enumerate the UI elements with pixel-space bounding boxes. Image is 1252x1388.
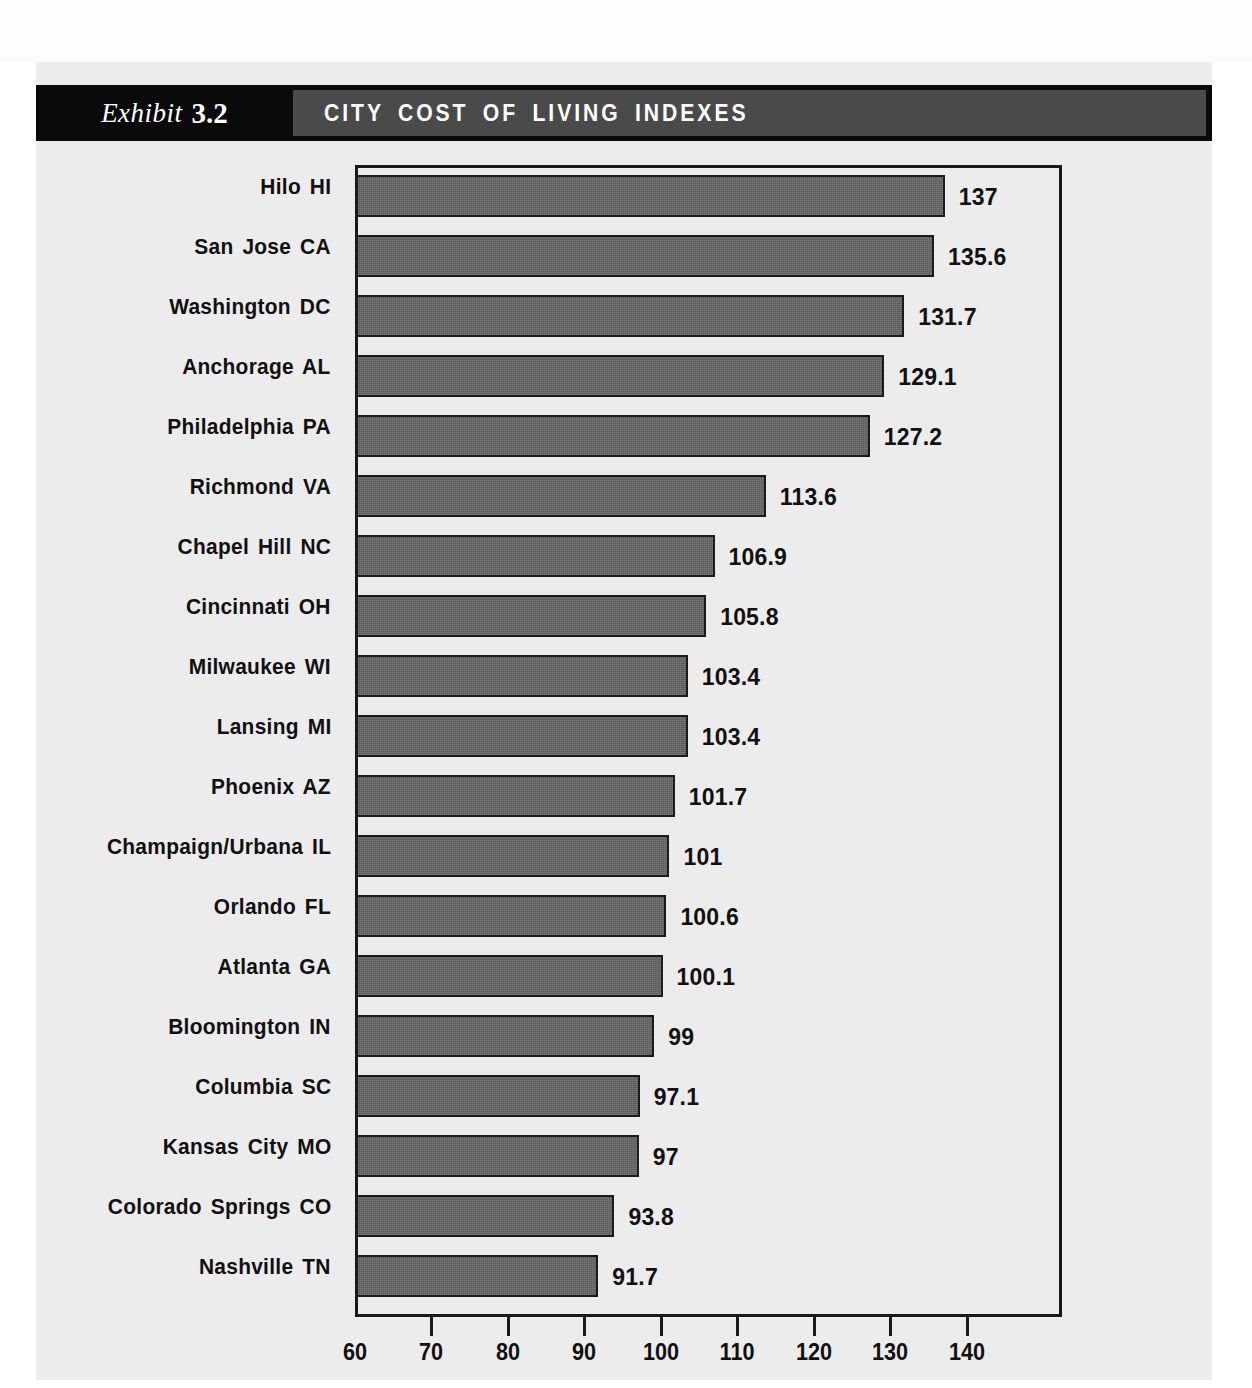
- bar-row: Bloomington IN99: [36, 1005, 1212, 1065]
- bar-value-label: 137: [959, 175, 998, 217]
- bar-value-label: 99: [668, 1015, 694, 1057]
- bar-value-label: 129.1: [898, 355, 957, 397]
- bar-category-label: Cincinnati OH: [186, 585, 331, 627]
- x-axis-tick: [813, 1317, 816, 1336]
- exhibit-title-band: CITY COST OF LIVING INDEXES: [293, 90, 1206, 136]
- bar-value-label: 101: [683, 835, 722, 877]
- bar-row: Milwaukee WI103.4: [36, 645, 1212, 705]
- bar-row: Atlanta GA100.1: [36, 945, 1212, 1005]
- bar-chart: Hilo HI137San Jose CA135.6Washington DC1…: [36, 141, 1212, 1380]
- bar-value-label: 93.8: [628, 1195, 674, 1237]
- bar-row: Phoenix AZ101.7: [36, 765, 1212, 825]
- bar-category-label: Lansing MI: [216, 705, 331, 747]
- x-axis-tick-label: 110: [720, 1339, 755, 1366]
- bar-category-label: Colorado Springs CO: [107, 1185, 331, 1227]
- x-axis-tick-label: 60: [343, 1339, 367, 1366]
- bar-row: Chapel Hill NC106.9: [36, 525, 1212, 585]
- x-axis-tick-label: 100: [643, 1339, 679, 1366]
- exhibit-header: Exhibit 3.2 CITY COST OF LIVING INDEXES: [36, 85, 1212, 141]
- bar-category-label: Orlando FL: [214, 885, 331, 927]
- bar-value-label: 135.6: [948, 235, 1007, 277]
- bar-category-label: Phoenix AZ: [211, 765, 331, 807]
- bar-value-label: 91.7: [612, 1255, 658, 1297]
- bar-category-label: Champaign/Urbana IL: [107, 825, 331, 867]
- bar-row: Cincinnati OH105.8: [36, 585, 1212, 645]
- bar: [356, 1255, 598, 1297]
- bar-value-label: 127.2: [884, 415, 943, 457]
- bar-value-label: 103.4: [702, 715, 761, 757]
- bar-value-label: 97.1: [654, 1075, 700, 1117]
- x-axis: 60708090100110120130140: [355, 1317, 1062, 1379]
- bar-value-label: 131.7: [918, 295, 977, 337]
- bar-value-label: 103.4: [702, 655, 761, 697]
- x-axis-tick-label: 120: [796, 1339, 832, 1366]
- x-axis-tick-label: 80: [496, 1339, 520, 1366]
- x-axis-tick: [660, 1317, 663, 1336]
- bar-value-label: 106.9: [729, 535, 788, 577]
- exhibit-title: CITY COST OF LIVING INDEXES: [324, 100, 749, 127]
- bar: [356, 295, 904, 337]
- exhibit-label: Exhibit 3.2: [36, 85, 293, 141]
- bar-row: Hilo HI137: [36, 165, 1212, 225]
- x-axis-tick-label: 130: [872, 1339, 908, 1366]
- bar-value-label: 101.7: [689, 775, 748, 817]
- bar-row: Lansing MI103.4: [36, 705, 1212, 765]
- x-axis-tick: [430, 1317, 433, 1336]
- bar-row: San Jose CA135.6: [36, 225, 1212, 285]
- x-axis-tick: [583, 1317, 586, 1336]
- bar-category-label: Hilo HI: [260, 165, 331, 207]
- bar-value-label: 105.8: [720, 595, 779, 637]
- bar-category-label: Bloomington IN: [169, 1005, 331, 1047]
- bar-value-label: 97: [653, 1135, 679, 1177]
- bar-row: Columbia SC97.1: [36, 1065, 1212, 1125]
- bar-category-label: Atlanta GA: [217, 945, 331, 987]
- bar-category-label: Richmond VA: [190, 465, 331, 507]
- x-axis-tick: [736, 1317, 739, 1336]
- page-top-margin: [0, 0, 1252, 62]
- exhibit-panel: Exhibit 3.2 CITY COST OF LIVING INDEXES …: [36, 62, 1212, 1380]
- x-axis-tick-label: 90: [572, 1339, 596, 1366]
- bar: [356, 955, 663, 997]
- bar: [356, 475, 766, 517]
- x-axis-tick: [507, 1317, 510, 1336]
- bar: [356, 1075, 640, 1117]
- bar: [356, 1015, 654, 1057]
- bar: [356, 655, 688, 697]
- bar: [356, 775, 675, 817]
- bar: [356, 235, 934, 277]
- bar-category-label: Anchorage AL: [183, 345, 331, 387]
- bar-row: Philadelphia PA127.2: [36, 405, 1212, 465]
- bar-category-label: Columbia SC: [195, 1065, 331, 1107]
- bar: [356, 535, 715, 577]
- bar-row: Kansas City MO97: [36, 1125, 1212, 1185]
- x-axis-tick: [966, 1317, 969, 1336]
- bar-category-label: San Jose CA: [194, 225, 331, 267]
- bar-category-label: Milwaukee WI: [189, 645, 331, 687]
- exhibit-number: 3.2: [192, 97, 228, 130]
- bar-row: Richmond VA113.6: [36, 465, 1212, 525]
- bar: [356, 715, 688, 757]
- bar-rows: Hilo HI137San Jose CA135.6Washington DC1…: [36, 165, 1212, 1305]
- bar-category-label: Philadelphia PA: [167, 405, 331, 447]
- bar-row: Colorado Springs CO93.8: [36, 1185, 1212, 1245]
- exhibit-word: Exhibit: [101, 98, 182, 129]
- bar: [356, 355, 884, 397]
- bar-row: Washington DC131.7: [36, 285, 1212, 345]
- bar: [356, 175, 945, 217]
- x-axis-tick: [889, 1317, 892, 1336]
- bar: [356, 1195, 614, 1237]
- bar-row: Anchorage AL129.1: [36, 345, 1212, 405]
- bar-value-label: 100.6: [680, 895, 739, 937]
- bar: [356, 595, 706, 637]
- bar-category-label: Nashville TN: [199, 1245, 331, 1287]
- x-axis-tick-label: 140: [949, 1339, 985, 1366]
- bar-value-label: 100.1: [677, 955, 736, 997]
- x-axis-tick-label: 70: [419, 1339, 443, 1366]
- bar-category-label: Chapel Hill NC: [177, 525, 331, 567]
- bar: [356, 1135, 639, 1177]
- bar-category-label: Kansas City MO: [162, 1125, 331, 1167]
- bar: [356, 835, 669, 877]
- bar-row: Nashville TN91.7: [36, 1245, 1212, 1305]
- bar-row: Champaign/Urbana IL101: [36, 825, 1212, 885]
- bar-row: Orlando FL100.6: [36, 885, 1212, 945]
